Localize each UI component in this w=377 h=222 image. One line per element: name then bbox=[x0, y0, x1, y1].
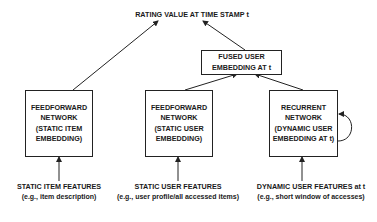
static-item-network-box: FEEDFORWARD NETWORK (STATIC ITEM EMBEDDI… bbox=[25, 90, 93, 157]
dynamic-user-features-label: DYNAMIC USER FEATURES at t (e.g., short … bbox=[250, 182, 372, 202]
feature-subtitle: (e.g., short window of accesses) bbox=[250, 192, 372, 202]
arrow-static-user-to-fused bbox=[185, 74, 237, 90]
node-line: FEEDFORWARD bbox=[31, 103, 87, 114]
arrow-item-to-rating bbox=[73, 21, 158, 90]
node-line: EMBEDDING AT t) bbox=[273, 134, 335, 145]
feature-title: STATIC ITEM FEATURES bbox=[4, 182, 114, 192]
feature-title: DYNAMIC USER FEATURES at t bbox=[250, 182, 372, 192]
node-line: EMBEDDING) bbox=[156, 134, 202, 145]
feature-title: STATIC USER FEATURES bbox=[113, 182, 243, 192]
diagram-canvas: RATING VALUE AT TIME STAMP t FUSED USER … bbox=[0, 0, 377, 222]
static-item-features-label: STATIC ITEM FEATURES (e.g., item descrip… bbox=[4, 182, 114, 202]
node-line: FEEDFORWARD bbox=[151, 103, 207, 114]
node-line: RECURRENT bbox=[281, 103, 326, 114]
node-line: (STATIC ITEM bbox=[36, 124, 82, 135]
rating-output-label: RATING VALUE AT TIME STAMP t bbox=[120, 10, 264, 20]
feature-subtitle: (e.g., user profile/all accessed items) bbox=[113, 192, 243, 202]
node-line: NETWORK bbox=[285, 113, 322, 124]
node-line: (STATIC USER bbox=[154, 124, 203, 135]
node-line: NETWORK bbox=[40, 113, 77, 124]
node-line: (DYNAMIC USER bbox=[275, 124, 333, 135]
fused-line-2: EMBEDDING AT t bbox=[212, 63, 271, 74]
arrow-dynamic-user-to-fused bbox=[255, 74, 303, 90]
self-loop-arrow bbox=[338, 114, 352, 141]
static-user-features-label: STATIC USER FEATURES (e.g., user profile… bbox=[113, 182, 243, 202]
recurrent-network-box: RECURRENT NETWORK (DYNAMIC USER EMBEDDIN… bbox=[269, 90, 338, 157]
static-user-network-box: FEEDFORWARD NETWORK (STATIC USER EMBEDDI… bbox=[145, 90, 213, 157]
node-line: NETWORK bbox=[160, 113, 197, 124]
arrow-fused-to-rating bbox=[203, 21, 245, 50]
node-line: EMBEDDING) bbox=[36, 134, 82, 145]
fused-line-1: FUSED USER bbox=[218, 52, 264, 63]
fused-user-embedding-box: FUSED USER EMBEDDING AT t bbox=[201, 50, 282, 75]
feature-subtitle: (e.g., item description) bbox=[4, 192, 114, 202]
